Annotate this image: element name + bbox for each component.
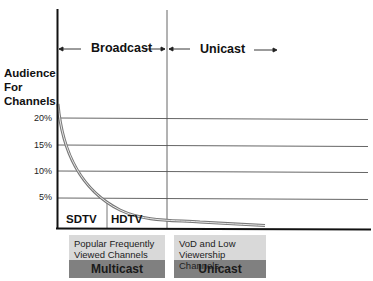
hdtv-label: HDTV bbox=[111, 213, 142, 225]
unicast-description: VoD and Low Viewership Channels bbox=[174, 235, 266, 260]
y-label-line: Channels bbox=[4, 94, 56, 108]
unicast-region-label: Unicast bbox=[200, 42, 245, 56]
unicast-box: VoD and Low Viewership Channels Unicast bbox=[174, 235, 266, 278]
tick-20: 20% bbox=[22, 113, 52, 123]
multicast-box: Popular Frequently Viewed Channels Multi… bbox=[69, 235, 165, 278]
y-axis-label: Audience For Channels bbox=[4, 66, 56, 108]
y-label-line: For bbox=[4, 80, 56, 94]
multicast-description: Popular Frequently Viewed Channels bbox=[69, 235, 165, 260]
gridline-10 bbox=[57, 171, 368, 173]
y-label-line: Audience bbox=[4, 66, 56, 80]
gridline-15 bbox=[57, 145, 368, 147]
x-axis bbox=[56, 229, 371, 230]
audience-curve bbox=[58, 104, 265, 226]
multicast-label: Multicast bbox=[69, 260, 165, 278]
broadcast-label: Broadcast bbox=[91, 41, 152, 55]
tick-10: 10% bbox=[22, 166, 52, 176]
tick-5: 5% bbox=[22, 192, 52, 202]
description-line: Popular Frequently bbox=[74, 238, 161, 249]
tick-15: 15% bbox=[22, 140, 52, 150]
gridline-20 bbox=[57, 118, 368, 120]
description-line: Viewed Channels bbox=[74, 249, 161, 260]
description-line: VoD and Low bbox=[179, 238, 262, 249]
sdtv-label: SDTV bbox=[66, 213, 97, 225]
